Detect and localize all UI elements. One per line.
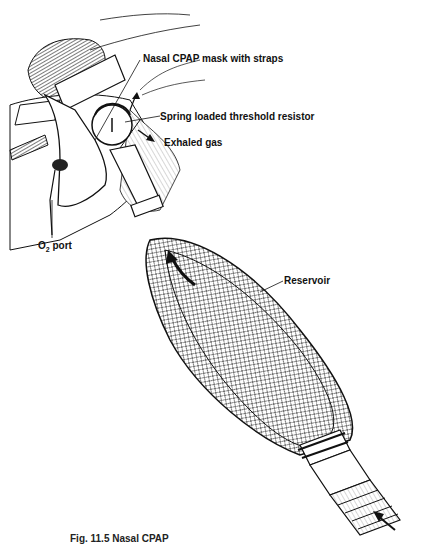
label-threshold-resistor: Spring loaded threshold resistor	[160, 111, 314, 123]
label-o2-port: O2 port	[38, 240, 72, 256]
o2-prefix: O	[38, 240, 46, 251]
label-nasal-cpap-mask: Nasal CPAP mask with straps	[143, 53, 283, 65]
label-exhaled-gas: Exhaled gas	[164, 137, 222, 149]
reservoir-bag	[146, 238, 352, 455]
label-reservoir: Reservoir	[284, 275, 330, 287]
figure-caption: Fig. 11.5 Nasal CPAP	[70, 533, 169, 545]
o2-suffix: port	[50, 240, 72, 251]
